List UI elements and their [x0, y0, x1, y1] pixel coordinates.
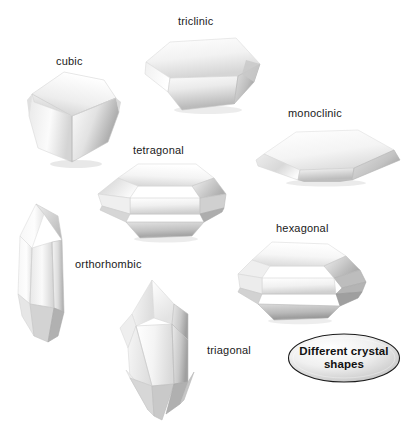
crystal-orthorhombic	[14, 196, 80, 350]
crystal-cubic	[20, 64, 124, 170]
different-crystal-shapes-badge: Different crystal shapes	[287, 333, 401, 383]
badge-label-line1: Different crystal	[299, 345, 388, 358]
label-hexagonal: hexagonal	[276, 222, 329, 234]
badge-label-line2: shapes	[299, 358, 388, 371]
crystal-hexagonal	[236, 234, 368, 326]
label-cubic: cubic	[56, 55, 83, 67]
label-triclinic: triclinic	[178, 15, 213, 27]
label-tetragonal: tetragonal	[133, 144, 184, 156]
label-orthorhombic: orthorhombic	[75, 258, 142, 270]
badge-label: Different crystal shapes	[287, 333, 401, 383]
crystal-tetragonal	[96, 160, 228, 244]
crystal-monoclinic	[254, 124, 404, 188]
label-triagonal: triagonal	[207, 344, 251, 356]
crystal-shapes-figure: cubic	[0, 0, 417, 428]
crystal-triclinic	[142, 30, 272, 116]
label-monoclinic: monoclinic	[288, 107, 342, 119]
crystal-triagonal	[118, 274, 208, 424]
